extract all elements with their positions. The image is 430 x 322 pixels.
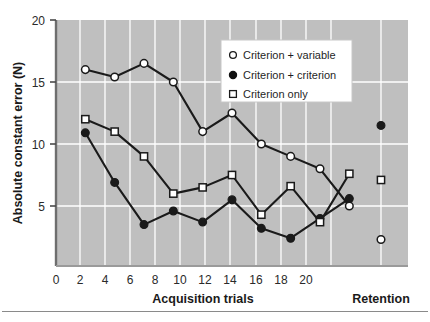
data-point-s2-i7 (287, 183, 294, 190)
data-point-s2-i4 (199, 184, 206, 191)
retention-axis-title: Retention (352, 292, 410, 306)
x-axis-title: Acquisition trials (152, 292, 253, 306)
x-tick-label-4: 4 (102, 273, 109, 287)
data-point-s0-i4 (199, 128, 207, 136)
bottom-divider (2, 311, 428, 312)
data-point-s0-i8 (316, 165, 324, 173)
y-axis-title: Absolute constant error (N) (11, 62, 25, 225)
retention-point-s2 (377, 176, 384, 183)
y-tick-label-15: 15 (32, 76, 46, 90)
data-point-s1-i0 (81, 129, 89, 137)
x-tick-label-10: 10 (173, 273, 187, 287)
data-point-s0-i9 (346, 202, 354, 210)
data-point-s2-i0 (82, 116, 89, 123)
data-point-s1-i5 (228, 196, 236, 204)
x-tick-label-18: 18 (274, 273, 288, 287)
x-tick-label-6: 6 (127, 273, 134, 287)
data-point-s1-i2 (140, 221, 148, 229)
data-point-s2-i2 (140, 153, 147, 160)
retention-point-s0 (377, 236, 385, 244)
legend-label-1: Criterion + criterion (243, 69, 336, 81)
x-tick-label-14: 14 (223, 273, 237, 287)
data-point-s1-i6 (257, 224, 265, 232)
legend-marker-filled-circle-icon (229, 71, 236, 78)
data-point-s1-i9 (345, 195, 353, 203)
legend-label-2: Criterion only (243, 88, 308, 100)
line-chart: Criterion + variable Criterion + criteri… (0, 0, 430, 322)
data-point-s2-i6 (258, 211, 265, 218)
data-point-s0-i0 (82, 66, 90, 74)
data-point-s0-i3 (170, 78, 178, 86)
legend-marker-open-square-icon (230, 91, 237, 98)
data-point-s1-i3 (169, 207, 177, 215)
data-point-s1-i7 (287, 234, 295, 242)
y-tick-label-10: 10 (32, 138, 46, 152)
data-point-s0-i5 (228, 109, 236, 117)
chart-legend: Criterion + variable Criterion + criteri… (221, 40, 352, 102)
retention-point-s1 (377, 122, 385, 130)
data-point-s2-i1 (111, 128, 118, 135)
y-tick-label-20: 20 (32, 14, 46, 28)
data-point-s0-i2 (140, 60, 148, 68)
legend-label-0: Criterion + variable (243, 49, 336, 61)
y-tick-label-5: 5 (38, 200, 45, 214)
x-tick-label-0: 0 (53, 273, 60, 287)
data-point-s1-i1 (111, 179, 119, 187)
data-point-s0-i6 (258, 140, 266, 148)
data-point-s2-i3 (170, 190, 177, 197)
x-tick-label-12: 12 (198, 273, 212, 287)
x-tick-label-2: 2 (77, 273, 84, 287)
data-point-s2-i9 (346, 170, 353, 177)
data-point-s2-i5 (228, 171, 235, 178)
data-point-s0-i1 (111, 73, 119, 81)
data-point-s2-i8 (316, 219, 323, 226)
figure-container: Criterion + variable Criterion + criteri… (0, 0, 430, 322)
x-tick-label-20: 20 (299, 273, 313, 287)
x-tick-label-8: 8 (152, 273, 159, 287)
legend-marker-open-circle-icon (230, 52, 237, 59)
data-point-s1-i4 (199, 218, 207, 226)
x-tick-label-16: 16 (249, 273, 263, 287)
data-point-s0-i7 (287, 153, 295, 161)
